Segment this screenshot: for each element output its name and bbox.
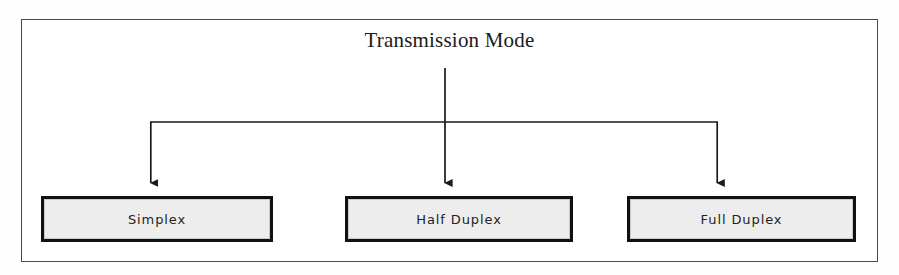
node-half-duplex-label: Half Duplex	[416, 212, 502, 227]
node-full-duplex-inner: Full Duplex	[630, 199, 853, 239]
node-full-duplex: Full Duplex	[627, 196, 856, 242]
transmission-mode-diagram: Transmission Mode Simplex Half Duplex Fu…	[0, 0, 899, 275]
node-half-duplex: Half Duplex	[345, 196, 573, 242]
node-simplex-label: Simplex	[128, 212, 186, 227]
root-node-label: Transmission Mode	[0, 27, 899, 53]
node-half-duplex-inner: Half Duplex	[348, 199, 570, 239]
node-simplex-inner: Simplex	[44, 199, 270, 239]
node-simplex: Simplex	[41, 196, 273, 242]
node-full-duplex-label: Full Duplex	[701, 212, 783, 227]
